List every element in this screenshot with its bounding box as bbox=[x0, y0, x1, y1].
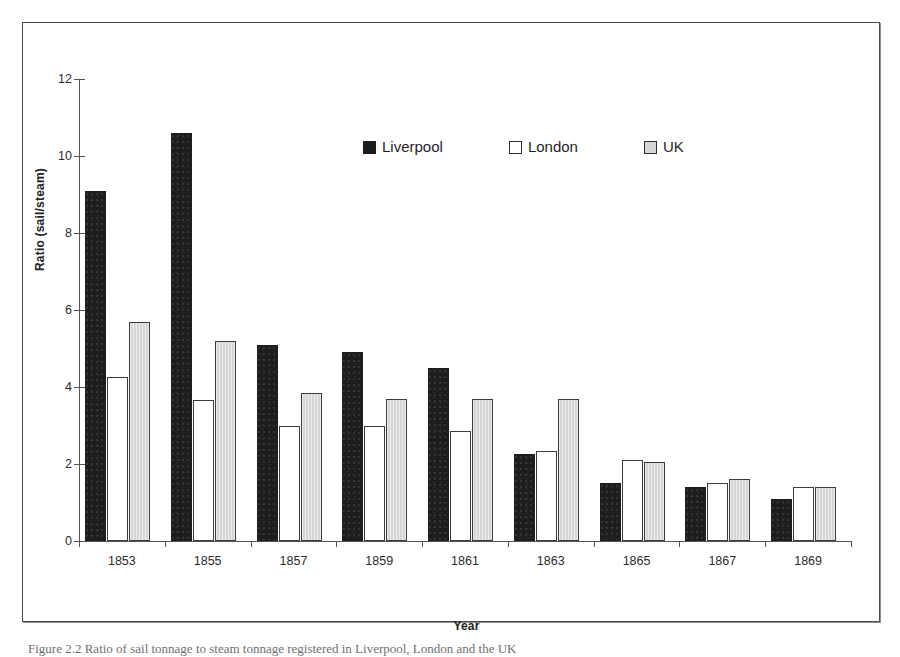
bar-uk-1861 bbox=[472, 399, 493, 541]
bar-london-1853 bbox=[107, 377, 128, 541]
x-axis-category-label: 1867 bbox=[708, 553, 736, 569]
x-axis-category-label: 1865 bbox=[623, 553, 651, 569]
bar-london-1861 bbox=[450, 431, 471, 541]
bar-uk-1863 bbox=[558, 399, 579, 541]
legend-item-london[interactable]: London bbox=[509, 139, 578, 155]
bar-uk-1857 bbox=[301, 393, 322, 541]
x-axis-category-label: 1863 bbox=[537, 553, 565, 569]
x-axis-tick bbox=[251, 541, 252, 547]
y-axis-tick bbox=[74, 387, 85, 388]
x-axis-tick bbox=[165, 541, 166, 547]
bar-london-1863 bbox=[536, 451, 557, 541]
filled-black-square-icon bbox=[363, 141, 376, 154]
y-axis-tick-label: 6 bbox=[65, 302, 72, 318]
legend-item-label: London bbox=[528, 139, 578, 155]
bar-liverpool-1863 bbox=[514, 454, 535, 541]
y-axis-tick-label: 4 bbox=[65, 379, 72, 395]
x-axis-tick bbox=[79, 541, 80, 547]
y-axis-tick-label: 12 bbox=[58, 71, 72, 87]
legend-item-label: Liverpool bbox=[382, 139, 443, 155]
bar-london-1859 bbox=[364, 426, 385, 542]
x-axis-category-label: 1859 bbox=[365, 553, 393, 569]
bar-london-1869 bbox=[793, 487, 814, 541]
x-axis-line bbox=[79, 541, 851, 542]
chart-legend: LiverpoolLondonUK bbox=[363, 139, 684, 155]
bar-liverpool-1855 bbox=[171, 133, 192, 541]
bar-uk-1859 bbox=[386, 399, 407, 541]
bar-liverpool-1861 bbox=[428, 368, 449, 541]
figure-frame: 024681012 185318551857185918611863186518… bbox=[22, 22, 880, 622]
bar-uk-1867 bbox=[729, 479, 750, 541]
legend-item-liverpool[interactable]: Liverpool bbox=[363, 139, 443, 155]
y-axis-tick-label: 0 bbox=[65, 533, 72, 549]
x-axis-tick bbox=[765, 541, 766, 547]
bar-london-1857 bbox=[279, 426, 300, 542]
bar-london-1855 bbox=[193, 400, 214, 541]
x-axis-tick bbox=[422, 541, 423, 547]
bar-uk-1855 bbox=[215, 341, 236, 541]
y-axis-tick bbox=[74, 156, 85, 157]
y-axis-tick bbox=[74, 233, 85, 234]
y-axis-tick bbox=[74, 464, 85, 465]
bar-liverpool-1859 bbox=[342, 352, 363, 541]
legend-item-label: UK bbox=[663, 139, 684, 155]
x-axis-tick bbox=[508, 541, 509, 547]
x-axis-category-label: 1855 bbox=[194, 553, 222, 569]
bar-london-1865 bbox=[622, 460, 643, 541]
bar-liverpool-1865 bbox=[600, 483, 621, 541]
filled-gray-square-icon bbox=[644, 141, 657, 154]
y-axis-tick-label: 10 bbox=[58, 148, 72, 164]
bar-liverpool-1853 bbox=[85, 191, 106, 541]
y-axis-tick bbox=[74, 310, 85, 311]
bar-london-1867 bbox=[707, 483, 728, 541]
bar-liverpool-1869 bbox=[771, 499, 792, 541]
bar-uk-1853 bbox=[129, 322, 150, 541]
chart-plot-area: 024681012 185318551857185918611863186518… bbox=[79, 63, 854, 563]
y-axis-title: Ratio (sail/steam) bbox=[33, 168, 47, 271]
x-axis-tick bbox=[336, 541, 337, 547]
x-axis-tick bbox=[594, 541, 595, 547]
x-axis-category-label: 1853 bbox=[108, 553, 136, 569]
x-axis-title: Year bbox=[79, 619, 854, 633]
y-axis-tick bbox=[74, 79, 85, 80]
bar-uk-1865 bbox=[644, 462, 665, 541]
y-axis-tick-label: 8 bbox=[65, 225, 72, 241]
x-axis-category-label: 1869 bbox=[794, 553, 822, 569]
outline-white-square-icon bbox=[509, 141, 522, 154]
y-axis-tick-label: 2 bbox=[65, 456, 72, 472]
figure-caption: Figure 2.2 Ratio of sail tonnage to stea… bbox=[28, 640, 848, 657]
x-axis-category-label: 1857 bbox=[280, 553, 308, 569]
x-axis-category-label: 1861 bbox=[451, 553, 479, 569]
bar-liverpool-1867 bbox=[685, 487, 706, 541]
x-axis-tick bbox=[679, 541, 680, 547]
x-axis-tick bbox=[851, 541, 852, 547]
bar-uk-1869 bbox=[815, 487, 836, 541]
bar-liverpool-1857 bbox=[257, 345, 278, 541]
legend-item-uk[interactable]: UK bbox=[644, 139, 684, 155]
